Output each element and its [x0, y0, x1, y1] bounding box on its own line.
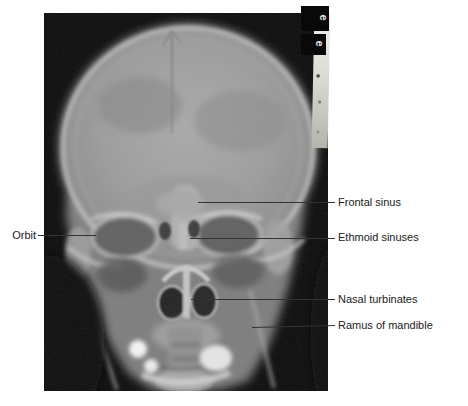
leader-line-nasal-turbinates — [191, 299, 335, 300]
leader-line-orbit — [38, 235, 96, 236]
leader-line-frontal-sinus — [198, 202, 335, 203]
film-marker-block-top: e — [301, 6, 329, 31]
label-ethmoid-sinuses: Ethmoid sinuses — [338, 231, 419, 244]
film-marker-letter: e — [313, 40, 324, 46]
label-ramus-of-mandible: Ramus of mandible — [338, 319, 433, 332]
film-marker-letter: e — [317, 14, 328, 20]
film-marker-block-bottom: e — [301, 34, 326, 55]
label-orbit: Orbit — [0, 229, 36, 242]
label-frontal-sinus: Frontal sinus — [338, 196, 401, 209]
leader-line-ethmoid-sinuses — [190, 238, 335, 239]
label-nasal-turbinates: Nasal turbinates — [338, 293, 418, 306]
figure-page: e e Orbit Frontal sinus Ethmoid sinuses … — [0, 0, 468, 406]
